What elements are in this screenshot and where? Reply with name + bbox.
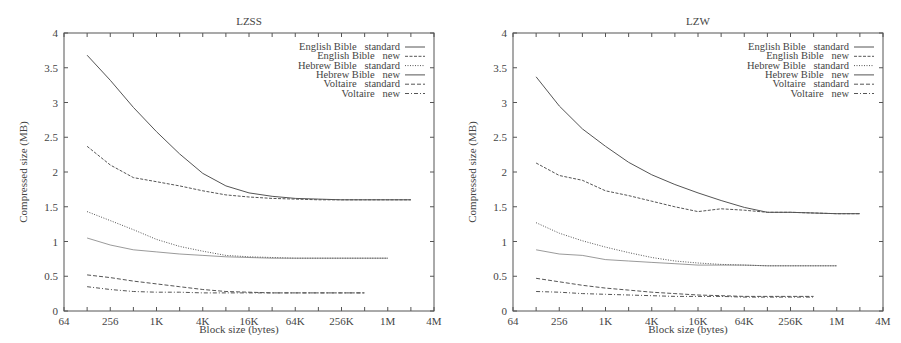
series-line-4 bbox=[536, 278, 814, 296]
series-line-2 bbox=[87, 212, 388, 259]
x-tick-label: 1M bbox=[829, 315, 845, 327]
series-line-1 bbox=[87, 146, 411, 200]
x-axis-label: Block size (bytes) bbox=[648, 323, 728, 336]
y-tick-label: 2.5 bbox=[493, 131, 507, 143]
legend-label: Voltaire new bbox=[791, 88, 850, 99]
x-axis-label: Block size (bytes) bbox=[199, 323, 279, 336]
series-line-1 bbox=[536, 163, 860, 214]
y-tick-label: 1 bbox=[53, 236, 59, 248]
x-tick-label: 4M bbox=[875, 315, 891, 327]
series-line-3 bbox=[87, 238, 388, 258]
x-tick-label: 1K bbox=[150, 315, 164, 327]
x-tick-label: 64K bbox=[735, 315, 754, 327]
series-line-2 bbox=[536, 223, 837, 266]
chart-title: LZSS bbox=[236, 15, 262, 27]
y-tick-label: 1.5 bbox=[493, 201, 507, 213]
y-tick-label: 2.5 bbox=[44, 131, 58, 143]
x-tick-label: 256 bbox=[551, 315, 568, 327]
y-axis-label: Compressed size (MB) bbox=[466, 121, 479, 223]
lzss-chart-panel: LZSS00.511.522.533.54642561K4K16K64K256K… bbox=[0, 0, 450, 343]
y-tick-label: 0.5 bbox=[44, 270, 58, 282]
x-tick-label: 256 bbox=[102, 315, 119, 327]
y-tick-label: 3 bbox=[53, 97, 59, 109]
y-axis-label: Compressed size (MB) bbox=[17, 121, 30, 223]
y-tick-label: 2 bbox=[53, 166, 59, 178]
x-tick-label: 64K bbox=[286, 315, 305, 327]
y-tick-label: 4 bbox=[502, 27, 508, 39]
x-tick-label: 1K bbox=[599, 315, 613, 327]
y-tick-label: 3 bbox=[502, 97, 508, 109]
y-tick-label: 3.5 bbox=[493, 62, 507, 74]
x-tick-label: 256K bbox=[778, 315, 803, 327]
lzss-chart: LZSS00.511.522.533.54642561K4K16K64K256K… bbox=[0, 0, 450, 343]
x-tick-label: 1M bbox=[380, 315, 396, 327]
chart-title: LZW bbox=[686, 15, 710, 27]
series-line-4 bbox=[87, 275, 365, 293]
lzw-chart: LZW00.511.522.533.54642561K4K16K64K256K1… bbox=[449, 0, 901, 343]
y-tick-label: 1.5 bbox=[44, 201, 58, 213]
lzw-chart-panel: LZW00.511.522.533.54642561K4K16K64K256K1… bbox=[449, 0, 899, 343]
x-tick-label: 4M bbox=[426, 315, 442, 327]
y-tick-label: 4 bbox=[53, 27, 59, 39]
y-tick-label: 0.5 bbox=[493, 270, 507, 282]
x-tick-label: 64 bbox=[59, 315, 71, 327]
legend-label: Voltaire new bbox=[342, 88, 401, 99]
y-tick-label: 2 bbox=[502, 166, 508, 178]
y-tick-label: 3.5 bbox=[44, 62, 58, 74]
y-tick-label: 1 bbox=[502, 236, 508, 248]
series-line-3 bbox=[536, 250, 837, 266]
x-tick-label: 256K bbox=[329, 315, 354, 327]
x-tick-label: 64 bbox=[508, 315, 520, 327]
